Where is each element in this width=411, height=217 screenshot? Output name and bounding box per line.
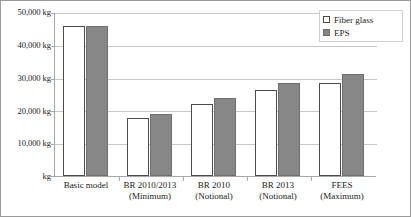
- bar-eps[interactable]: [214, 98, 236, 176]
- bar-eps[interactable]: [278, 83, 300, 176]
- y-axis-tick: [51, 176, 55, 177]
- x-category-label-line2: (Notional): [182, 191, 246, 202]
- bar-group: [119, 12, 183, 176]
- bar-eps[interactable]: [342, 74, 364, 176]
- y-tick-label: kg: [3, 172, 51, 181]
- x-category-label-line1: BR 2010: [198, 180, 230, 190]
- chart-legend: Fiber glass EPS: [319, 10, 403, 42]
- legend-label: Fiber glass: [334, 15, 373, 25]
- y-tick-label: 20,000 kg: [3, 107, 51, 116]
- bar-fiber-glass[interactable]: [255, 90, 277, 176]
- chart-figure: 50,000 kg 40,000 kg 30,000 kg 20,000 kg …: [0, 0, 411, 217]
- bar-group: [247, 12, 311, 176]
- x-category-label: FEES (Maximum): [310, 180, 374, 202]
- y-tick-label: 40,000 kg: [3, 41, 51, 50]
- legend-item-fiber-glass[interactable]: Fiber glass: [323, 13, 399, 26]
- bar-fiber-glass[interactable]: [191, 104, 213, 177]
- x-category-label-line2: (Maximum): [310, 191, 374, 202]
- bar-fiber-glass[interactable]: [319, 83, 341, 177]
- bar-eps[interactable]: [86, 26, 108, 176]
- legend-swatch-fiber-glass-icon: [323, 16, 330, 23]
- legend-swatch-eps-icon: [323, 29, 330, 36]
- bar-group: [183, 12, 247, 176]
- x-category-label-line1: BR 2013: [262, 180, 294, 190]
- y-tick-label: 10,000 kg: [3, 139, 51, 148]
- bar-fiber-glass[interactable]: [63, 26, 85, 176]
- x-category-label: BR 2010 (Notional): [182, 180, 246, 202]
- x-category-label-line1: BR 2010/2013: [124, 180, 177, 190]
- y-tick-label: 30,000 kg: [3, 74, 51, 83]
- bar-eps[interactable]: [150, 114, 172, 176]
- x-category-label-line2: (Notional): [246, 191, 310, 202]
- bar-group: [55, 12, 119, 176]
- x-category-label: Basic model: [54, 180, 118, 191]
- legend-label: EPS: [334, 28, 350, 38]
- x-category-label: BR 2013 (Notional): [246, 180, 310, 202]
- x-category-label-line1: FEES: [331, 180, 352, 190]
- y-tick-label: 50,000 kg: [3, 8, 51, 17]
- x-category-label: BR 2010/2013 (Minimum): [118, 180, 182, 202]
- legend-item-eps[interactable]: EPS: [323, 26, 399, 39]
- bar-fiber-glass[interactable]: [127, 118, 149, 176]
- x-category-label-line1: Basic model: [64, 180, 109, 190]
- x-category-label-line2: (Minimum): [118, 191, 182, 202]
